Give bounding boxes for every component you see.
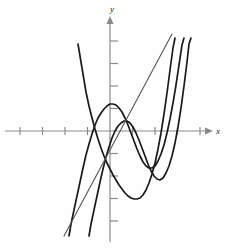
x-axis-label: x bbox=[215, 126, 220, 136]
plot-canvas: x y bbox=[0, 0, 238, 252]
y-axis-label: y bbox=[109, 4, 114, 14]
figure-container: x y bbox=[0, 0, 238, 252]
